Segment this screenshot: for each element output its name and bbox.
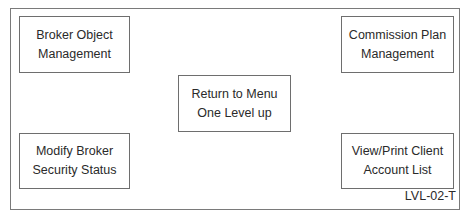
box-label-line: Management [361,45,434,64]
commission-plan-management-button[interactable]: Commission Plan Management [341,16,454,73]
broker-object-management-button[interactable]: Broker Object Management [19,16,130,73]
modify-broker-security-status-button[interactable]: Modify Broker Security Status [19,133,130,189]
box-label-line: Modify Broker [36,142,113,161]
screen-id-label: LVL-02-T [405,189,456,203]
box-label-line: Commission Plan [349,26,446,45]
return-to-menu-button[interactable]: Return to Menu One Level up [178,75,291,132]
view-print-client-account-list-button[interactable]: View/Print Client Account List [341,133,454,189]
box-label-line: One Level up [197,104,271,123]
box-label-line: Broker Object [36,26,112,45]
box-label-line: Account List [363,161,431,180]
box-label-line: Return to Menu [191,85,277,104]
box-label-line: Security Status [32,161,116,180]
box-label-line: View/Print Client [352,142,443,161]
box-label-line: Management [38,45,111,64]
